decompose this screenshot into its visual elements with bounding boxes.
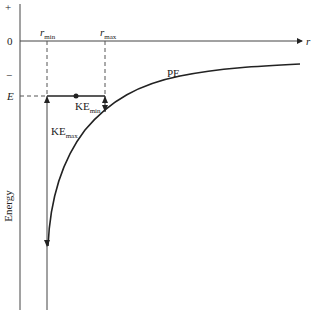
y-minus-label: − <box>6 70 12 81</box>
pe-curve-label: PE <box>167 68 180 79</box>
r-axis-label: r <box>306 36 310 47</box>
pe-curve <box>48 64 300 246</box>
y-plus-label: + <box>5 2 11 13</box>
particle-dot <box>74 94 79 99</box>
energy-axis-title: Energy <box>2 190 14 222</box>
rmin-label: rmin <box>40 27 55 41</box>
energy-level-label: E <box>7 91 14 102</box>
y-zero-label: 0 <box>7 36 13 47</box>
energy-diagram <box>0 0 316 316</box>
ke-min-label: KEmin <box>75 101 101 115</box>
rmax-label: rmax <box>100 27 116 41</box>
ke-max-label: KEmax <box>51 126 78 140</box>
